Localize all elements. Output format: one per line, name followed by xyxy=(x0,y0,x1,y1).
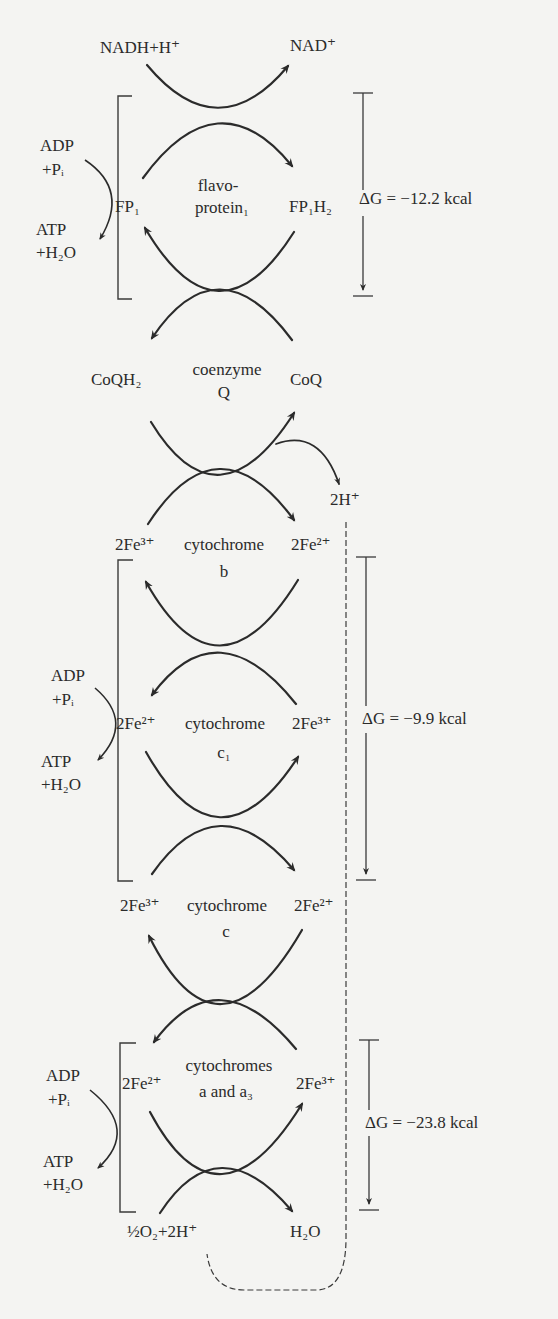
carrier-right: FP₁H₂ xyxy=(289,197,332,217)
carrier-left: FP₁ xyxy=(115,197,140,217)
carrier-left: 2Fe²⁺ xyxy=(122,1074,162,1094)
pi-label: +Pᵢ xyxy=(42,160,64,180)
carrier-name-line2: b xyxy=(220,562,229,582)
atp-label: ATP xyxy=(43,1152,73,1172)
adp-label: ADP xyxy=(51,666,85,686)
nadh-label: NADH+H⁺ xyxy=(100,38,180,58)
atp-brackets xyxy=(118,96,136,1212)
pi-label: +Pᵢ xyxy=(48,1090,70,1110)
h2o-label: +H₂O xyxy=(41,775,81,795)
delta-g-1: ΔG = −12.2 kcal xyxy=(359,189,472,209)
carrier-name-line2: c xyxy=(222,922,230,942)
carrier-name-line2: Q xyxy=(218,383,230,403)
carrier-right: 2Fe²⁺ xyxy=(294,896,334,916)
oxygen-label: ½O₂+2H⁺ xyxy=(127,1222,197,1242)
carrier-name-line2: protein₁ xyxy=(195,198,249,218)
h2o-label: +H₂O xyxy=(43,1175,83,1195)
carrier-name-line1: cytochrome xyxy=(184,535,264,555)
carrier-left: 2Fe²⁺ xyxy=(116,714,156,734)
carrier-right: 2Fe³⁺ xyxy=(296,1074,336,1094)
adp-label: ADP xyxy=(46,1066,80,1086)
pi-label: +Pᵢ xyxy=(52,690,74,710)
carrier-right: CoQ xyxy=(290,370,322,390)
carrier-name-line2: a and a₃ xyxy=(199,1082,253,1102)
carrier-right: 2Fe³⁺ xyxy=(292,714,332,734)
carrier-right: 2Fe²⁺ xyxy=(291,535,331,555)
carrier-name-line1: coenzyme xyxy=(193,360,262,380)
carrier-left: CoQH₂ xyxy=(91,370,141,390)
carrier-name-line1: cytochrome xyxy=(187,896,267,916)
carrier-name-line1: flavo- xyxy=(198,176,239,196)
h2o-label: +H₂O xyxy=(36,243,76,263)
carrier-name-line2: c₁ xyxy=(217,743,230,763)
arc-nadh xyxy=(147,65,288,108)
delta-g-3: ΔG = −23.8 kcal xyxy=(365,1113,478,1133)
nad-label: NAD⁺ xyxy=(290,36,336,56)
proton-label: 2H⁺ xyxy=(330,490,360,510)
delta-g-2: ΔG = −9.9 kcal xyxy=(362,709,467,729)
carrier-name-line1: cytochrome xyxy=(185,714,265,734)
water-label: H₂O xyxy=(290,1222,320,1242)
carrier-left: 2Fe³⁺ xyxy=(115,535,155,555)
adp-label: ADP xyxy=(40,136,74,156)
atp-label: ATP xyxy=(36,220,66,240)
carrier-left: 2Fe³⁺ xyxy=(120,896,160,916)
atp-label: ATP xyxy=(41,752,71,772)
carrier-name-line1: cytochromes xyxy=(186,1056,273,1076)
